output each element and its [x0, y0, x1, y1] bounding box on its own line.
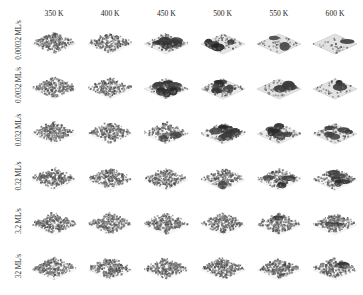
snapshot-panel-r3-c5-600K — [307, 156, 363, 201]
snapshot-panel-r1-c4-550K — [251, 65, 307, 110]
growth-morphology-figure: 0.00032 ML/s0.0032 ML/s0.032 ML/s0.32 ML… — [0, 0, 363, 295]
snapshot-panel-r2-c3-500K — [195, 110, 251, 155]
snapshot-panel-r0-c3-500K — [195, 20, 251, 65]
snapshot-panel-r1-c3-500K — [195, 65, 251, 110]
snapshot-panel-r5-c0-350K — [26, 246, 82, 291]
snapshot-panel-r4-c1-400K — [82, 201, 138, 246]
snapshot-panel-r5-c2-450K — [138, 246, 194, 291]
snapshot-panel-r0-c1-400K — [82, 20, 138, 65]
column-header-500k: 500 K — [195, 9, 251, 18]
snapshot-panel-r5-c5-600K — [307, 246, 363, 291]
column-header-600k: 600 K — [307, 9, 363, 18]
snapshot-panel-r3-c3-500K — [195, 156, 251, 201]
snapshot-panel-r3-c4-550K — [251, 156, 307, 201]
snapshot-panel-r4-c3-500K — [195, 201, 251, 246]
snapshot-panel-r1-c5-600K — [307, 65, 363, 110]
snapshot-panel-r3-c2-450K — [138, 156, 194, 201]
column-header-350k: 350 K — [26, 9, 82, 18]
snapshot-panel-r2-c4-550K — [251, 110, 307, 155]
snapshot-panel-r1-c2-450K — [138, 65, 194, 110]
deposition-rate-axis: 0.00032 ML/s0.0032 ML/s0.032 ML/s0.32 ML… — [0, 0, 26, 295]
snapshot-panel-r1-c0-350K — [26, 65, 82, 110]
column-header-550k: 550 K — [251, 9, 307, 18]
snapshot-panel-r5-c1-400K — [82, 246, 138, 291]
column-header-450k: 450 K — [138, 9, 194, 18]
snapshot-panel-r0-c5-600K — [307, 20, 363, 65]
rate-label-row-5: 32 ML/s — [15, 207, 23, 295]
column-header-400k: 400 K — [82, 9, 138, 18]
snapshot-panel-r0-c2-450K — [138, 20, 194, 65]
snapshot-panel-r0-c0-350K — [26, 20, 82, 65]
snapshot-panel-r4-c0-350K — [26, 201, 82, 246]
snapshot-panel-r0-c4-550K — [251, 20, 307, 65]
snapshot-panel-r5-c4-550K — [251, 246, 307, 291]
snapshot-panel-grid — [26, 20, 363, 292]
snapshot-panel-r4-c4-550K — [251, 201, 307, 246]
snapshot-panel-r2-c1-400K — [82, 110, 138, 155]
snapshot-panel-r5-c3-500K — [195, 246, 251, 291]
snapshot-panel-r4-c2-450K — [138, 201, 194, 246]
snapshot-panel-r2-c5-600K — [307, 110, 363, 155]
snapshot-panel-r2-c0-350K — [26, 110, 82, 155]
snapshot-panel-r1-c1-400K — [82, 65, 138, 110]
snapshot-panel-r2-c2-450K — [138, 110, 194, 155]
snapshot-panel-r3-c0-350K — [26, 156, 82, 201]
snapshot-panel-r4-c5-600K — [307, 201, 363, 246]
snapshot-panel-r3-c1-400K — [82, 156, 138, 201]
